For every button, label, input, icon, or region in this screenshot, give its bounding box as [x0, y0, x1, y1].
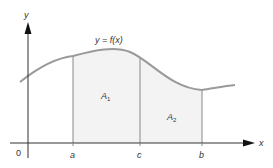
region-label-a1: A1 — [101, 91, 110, 102]
tick-label-a: a — [70, 150, 75, 160]
shaded-region — [73, 49, 202, 143]
y-axis-label: y — [24, 10, 29, 20]
tick-label-b: b — [199, 150, 204, 160]
y-axis-arrow-icon — [25, 22, 32, 34]
x-axis-label: x — [259, 138, 264, 148]
region-label-a2: A2 — [167, 112, 176, 123]
curve-label: y = f(x) — [95, 35, 123, 45]
tick-label-c: c — [137, 150, 142, 160]
area-under-curve-diagram — [0, 0, 273, 168]
x-axis-arrow-icon — [243, 140, 255, 147]
origin-label: 0 — [16, 148, 21, 158]
